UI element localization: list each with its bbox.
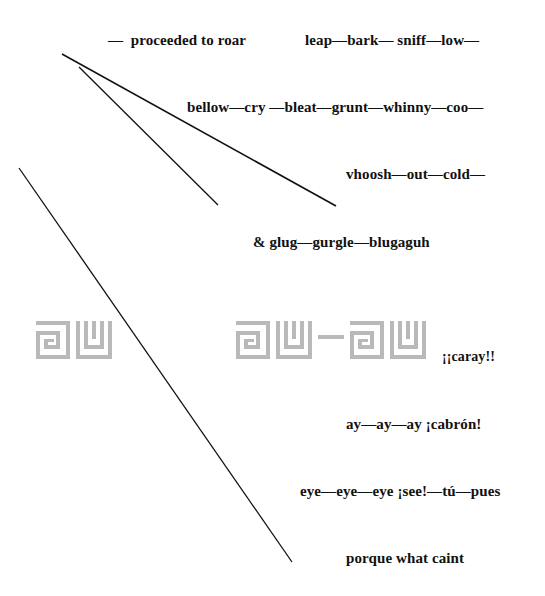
meander-a-glyph: [350, 321, 384, 359]
poem-page: — proceeded to roar leap—bark— sniff—low…: [0, 0, 545, 596]
meander-glyph-pair-right: [236, 321, 441, 361]
meander-glyph-pair-left: [36, 321, 116, 361]
meander-w-glyph: [76, 321, 112, 359]
diagonal-lines: [0, 0, 545, 596]
diagonal-line-long-upper: [62, 54, 336, 206]
meander-w-glyph: [390, 321, 426, 359]
meander-a-glyph: [36, 321, 70, 359]
poem-line-caray: ¡¡caray!!: [442, 350, 495, 364]
poem-line-porque: porque what caint: [346, 551, 464, 566]
poem-line-eye-see: eye—eye—eye ¡see!—tú—pues: [300, 484, 500, 499]
diagonal-line-long-lower: [19, 168, 292, 562]
poem-line-proceeded-to-roar: — proceeded to roar: [108, 33, 246, 48]
diagonal-line-short-upper: [79, 67, 218, 205]
meander-w-glyph: [276, 321, 312, 359]
poem-line-bellow-cry: bellow—cry —bleat—grunt—whinny—coo—: [187, 100, 483, 115]
poem-line-glug: & glug—gurgle—blugaguh: [253, 235, 430, 250]
meander-dash-glyph: [318, 335, 344, 339]
poem-line-vhoosh: vhoosh—out—cold—: [346, 167, 485, 182]
poem-line-ay-cabron: ay—ay—ay ¡cabrón!: [346, 417, 481, 432]
meander-a-glyph: [236, 321, 270, 359]
poem-line-leap-bark: leap—bark— sniff—low—: [305, 33, 479, 48]
